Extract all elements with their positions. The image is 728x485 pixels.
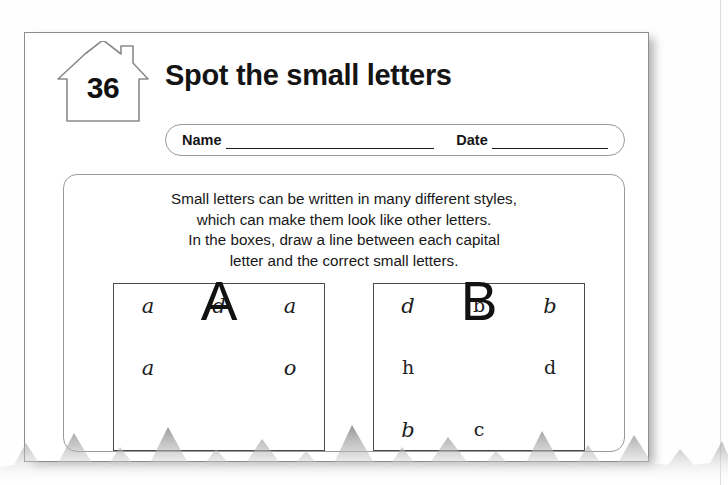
- letter-option[interactable]: a: [262, 296, 318, 317]
- name-label: Name: [182, 132, 222, 148]
- exercise-box-a[interactable]: a d a a A o: [113, 283, 325, 451]
- instruction-line-1: Small letters can be written in many dif…: [64, 189, 624, 210]
- letter-option[interactable]: b: [522, 296, 578, 317]
- scanned-page-background: 36 Spot the small letters Name Date Smal…: [0, 0, 728, 485]
- exercise-box-b[interactable]: d b b h B d b c: [373, 283, 585, 451]
- house-icon: 36: [55, 41, 151, 125]
- letter-option[interactable]: o: [262, 358, 318, 379]
- exercise-boxes: a d a a A o d b b h B: [64, 283, 624, 452]
- letter-option[interactable]: b: [380, 420, 436, 441]
- date-label: Date: [456, 132, 487, 148]
- letter-option[interactable]: d: [522, 358, 578, 377]
- page-number: 36: [55, 71, 151, 105]
- page-gutter-line: [720, 0, 721, 485]
- date-input[interactable]: [492, 148, 608, 149]
- worksheet-page: 36 Spot the small letters Name Date Smal…: [24, 32, 649, 462]
- capital-letter: A: [178, 274, 260, 329]
- worksheet-header: 36 Spot the small letters: [25, 33, 648, 113]
- instruction-line-4: letter and the correct small letters.: [64, 251, 624, 272]
- letter-option[interactable]: a: [120, 296, 176, 317]
- instruction-line-2: which can make them look like other lett…: [64, 210, 624, 231]
- letter-option[interactable]: c: [438, 420, 520, 439]
- instruction-text: Small letters can be written in many dif…: [64, 189, 624, 271]
- letter-option[interactable]: d: [380, 296, 436, 317]
- instruction-line-3: In the boxes, draw a line between each c…: [64, 230, 624, 251]
- name-date-bar: Name Date: [165, 124, 625, 156]
- name-input[interactable]: [226, 148, 435, 149]
- letter-option[interactable]: a: [120, 358, 176, 379]
- capital-letter: B: [438, 274, 520, 329]
- letter-option[interactable]: h: [380, 358, 436, 377]
- page-title: Spot the small letters: [165, 59, 452, 92]
- instruction-panel: Small letters can be written in many dif…: [63, 174, 625, 452]
